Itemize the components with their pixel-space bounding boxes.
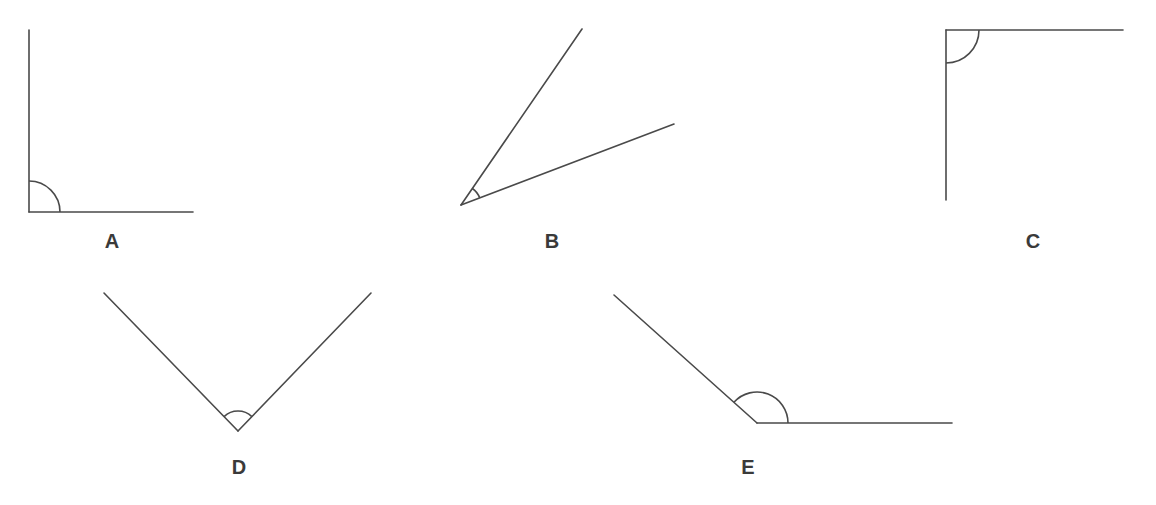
angle-d-label: D bbox=[232, 456, 246, 478]
angle-d-arc bbox=[224, 411, 252, 417]
angle-a-label: A bbox=[105, 230, 119, 252]
angle-figure-d: D bbox=[104, 293, 371, 478]
angle-c-label: C bbox=[1026, 230, 1040, 252]
angle-figure-b: B bbox=[461, 29, 674, 252]
angle-b-ray-2 bbox=[461, 124, 674, 205]
angle-figure-c: C bbox=[946, 30, 1123, 252]
angle-b-arc bbox=[472, 189, 479, 198]
angle-figure-e: E bbox=[614, 295, 952, 478]
angle-d-ray-1 bbox=[104, 293, 238, 431]
angle-e-ray-1 bbox=[614, 295, 757, 423]
angle-c-arc bbox=[946, 30, 979, 63]
angle-e-arc bbox=[734, 392, 788, 423]
angle-a-arc bbox=[29, 181, 60, 212]
angle-b-label: B bbox=[545, 230, 559, 252]
angle-e-label: E bbox=[741, 456, 754, 478]
angle-d-ray-2 bbox=[238, 293, 371, 431]
angle-figure-a: A bbox=[29, 30, 193, 252]
angle-b-ray-1 bbox=[461, 29, 582, 205]
angles-diagram: A B C D E bbox=[0, 0, 1156, 505]
